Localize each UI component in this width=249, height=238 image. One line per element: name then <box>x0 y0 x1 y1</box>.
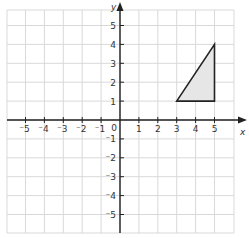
x-tick-label: ⁻4 <box>38 124 49 134</box>
axes: x y <box>7 2 247 233</box>
coordinate-plane: x y ⁻5⁻4⁻3⁻2⁻101234512345⁻1⁻2⁻3⁻4⁻5 <box>0 0 249 238</box>
x-axis-arrow-icon <box>238 117 247 124</box>
y-tick-label: ⁻3 <box>106 172 116 182</box>
x-tick-label: 1 <box>136 124 142 134</box>
y-tick-label: ⁻4 <box>106 191 117 201</box>
origin-label: 0 <box>111 123 117 133</box>
x-tick-label: ⁻3 <box>57 124 67 134</box>
y-tick-label: ⁻5 <box>106 210 116 220</box>
y-axis-label: y <box>110 2 117 12</box>
y-tick-label: 1 <box>110 97 116 107</box>
x-tick-label: 4 <box>193 124 199 134</box>
y-axis-arrow-icon <box>117 2 124 11</box>
x-axis-label: x <box>239 127 246 137</box>
x-tick-label: ⁻2 <box>76 124 86 134</box>
x-tick-label: 3 <box>174 124 180 134</box>
y-tick-label: ⁻1 <box>106 134 116 144</box>
x-tick-label: ⁻1 <box>95 124 105 134</box>
x-tick-label: ⁻5 <box>19 124 29 134</box>
y-tick-label: 4 <box>110 40 116 50</box>
y-tick-label: ⁻2 <box>106 153 116 163</box>
y-tick-label: 5 <box>110 21 116 31</box>
x-tick-label: 2 <box>155 124 161 134</box>
y-tick-label: 2 <box>110 78 116 88</box>
coordinate-plane-figure: x y ⁻5⁻4⁻3⁻2⁻101234512345⁻1⁻2⁻3⁻4⁻5 <box>0 0 249 238</box>
x-tick-label: 5 <box>212 124 218 134</box>
y-tick-label: 3 <box>110 59 116 69</box>
